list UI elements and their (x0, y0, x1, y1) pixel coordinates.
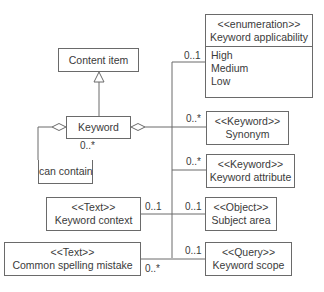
class-content-item: Content item (58, 48, 139, 72)
aggregation-diamond-right-icon (131, 124, 145, 131)
class-synonym: <<Keyword>> Synonym (206, 111, 289, 145)
enum-value-low: Low (211, 75, 312, 88)
class-keyword-scope: <<Query>> Keyword scope (205, 242, 292, 276)
class-keyword-context: <<Text>> Keyword context (46, 197, 141, 231)
class-name: Subject area (206, 214, 276, 227)
multiplicity-keyword-attribute: 0..* (186, 156, 201, 168)
class-name: Keyword context (47, 214, 140, 227)
class-name: Keyword attribute (207, 171, 294, 184)
class-name: Keyword applicability (206, 31, 312, 44)
class-keyword: Keyword (66, 116, 131, 139)
multiplicity-keyword-scope: 0..1 (185, 245, 202, 257)
association-label: can contain (39, 160, 92, 182)
multiplicity-applicability: 0..1 (184, 50, 201, 62)
class-name: Content item (59, 49, 138, 71)
class-common-spelling-mistake: <<Text>> Common spelling mistake (4, 242, 141, 276)
enum-value-high: High (211, 49, 312, 62)
stereotype: <<Query>> (206, 246, 291, 259)
enum-value-medium: Medium (211, 62, 312, 75)
inheritance-triangle-icon (94, 72, 104, 82)
stereotype: <<Text>> (5, 246, 140, 259)
stereotype: <<Keyword>> (207, 158, 294, 171)
aggregation-diamond-left-icon (52, 124, 66, 131)
self-loop-line (38, 127, 52, 160)
class-keyword-attribute: <<Keyword>> Keyword attribute (206, 154, 295, 188)
class-subject-area: <<Object>> Subject area (205, 197, 277, 231)
class-name: Keyword (67, 117, 130, 138)
stereotype: <<Object>> (206, 201, 276, 214)
multiplicity-self-loop: 0..* (80, 140, 95, 152)
uml-diagram: Content item Keyword can contain 0..* <<… (0, 0, 324, 292)
multiplicity-common-spelling-mistake: 0..* (145, 263, 160, 275)
multiplicity-subject-area: 0..1 (185, 201, 202, 213)
class-name: Common spelling mistake (5, 259, 140, 272)
enum-values: High Medium Low (206, 47, 312, 88)
stereotype: <<enumeration>> (206, 18, 312, 31)
multiplicity-synonym: 0..* (186, 113, 201, 125)
class-keyword-applicability: <<enumeration>> Keyword applicability Hi… (205, 14, 313, 98)
class-name: Keyword scope (206, 259, 291, 272)
multiplicity-keyword-context: 0..1 (145, 201, 162, 213)
enum-header: <<enumeration>> Keyword applicability (206, 15, 312, 47)
class-name: Synonym (207, 128, 288, 141)
self-association-can-contain: can contain (38, 160, 93, 184)
stereotype: <<Keyword>> (207, 115, 288, 128)
stereotype: <<Text>> (47, 201, 140, 214)
